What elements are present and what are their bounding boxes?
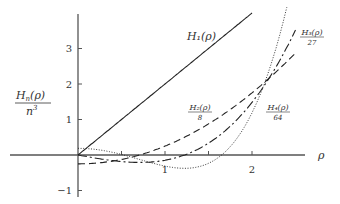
y-tick-label: 1 <box>66 114 72 125</box>
label-h4-over-64: H₄(ρ)64 <box>266 103 290 122</box>
x-axis-label: ρ <box>317 149 325 162</box>
y-axis-label: Hn(ρ)n3 <box>15 89 51 118</box>
svg-text:64: 64 <box>274 114 283 122</box>
svg-text:H₂(ρ): H₂(ρ) <box>188 103 210 112</box>
curve-h28 <box>78 53 296 164</box>
label-h2-over-8: H₂(ρ)8 <box>188 103 212 122</box>
curve-h327 <box>78 30 296 162</box>
y-tick-label: 3 <box>66 43 72 54</box>
labels: H₁(ρ)H₂(ρ)8H₃(ρ)27H₄(ρ)64 <box>186 28 324 122</box>
curve-h1 <box>78 13 252 155</box>
svg-text:n3: n3 <box>26 104 38 118</box>
svg-text:H₃(ρ): H₃(ρ) <box>300 28 322 37</box>
y-tick-label: 2 <box>66 79 72 90</box>
x-tick-label: 2 <box>249 164 255 175</box>
svg-text:8: 8 <box>198 114 203 122</box>
y-tick-label: −1 <box>57 185 72 196</box>
label-h1: H₁(ρ) <box>186 30 216 43</box>
svg-text:27: 27 <box>307 39 317 47</box>
curve-h464 <box>78 7 287 168</box>
svg-text:Hn(ρ): Hn(ρ) <box>15 89 45 103</box>
label-h3-over-27: H₃(ρ)27 <box>300 28 324 47</box>
hermite-chart: 12−1123ρHn(ρ)n3 H₁(ρ)H₂(ρ)8H₃(ρ)27H₄(ρ)6… <box>0 0 340 204</box>
svg-text:H₄(ρ): H₄(ρ) <box>266 103 288 112</box>
